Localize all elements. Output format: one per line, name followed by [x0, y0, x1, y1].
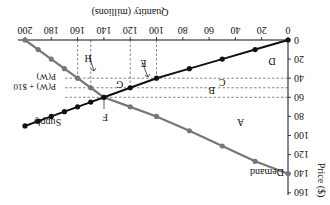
y-tick-label: 20: [294, 54, 304, 65]
x-tick-label: 60: [204, 25, 214, 36]
supply-point: [253, 47, 258, 52]
y-tick-label: 160: [294, 187, 309, 198]
x-tick-label: 200: [18, 25, 33, 36]
demand-point: [285, 171, 290, 176]
y-tick-label: 40: [294, 73, 304, 84]
region-label-a: A: [236, 117, 244, 128]
x-tick-label: 80: [178, 25, 188, 36]
y-tick-label: 80: [294, 111, 304, 122]
y-tick-label: 120: [294, 149, 309, 160]
supply-point: [128, 85, 133, 90]
supply-point: [22, 123, 27, 128]
demand-point: [36, 47, 41, 52]
demand-point: [22, 37, 27, 42]
demand-point: [220, 143, 225, 148]
region-label-g: G: [116, 79, 123, 90]
x-tick-label: 100: [149, 25, 164, 36]
y-tick-label: 140: [294, 168, 309, 179]
supply-point: [285, 37, 290, 42]
demand-point: [62, 66, 67, 71]
demand-point: [187, 128, 192, 133]
region-label-f: F: [102, 112, 108, 123]
x-tick-label: 180: [44, 25, 59, 36]
region-label-c: C: [219, 77, 226, 88]
region-labels: ABCDEFGH: [85, 53, 276, 128]
x-tick-label: 0: [286, 25, 291, 36]
x-tick-label: 160: [70, 25, 85, 36]
x-tick-label: 120: [123, 25, 138, 36]
supply-point: [220, 57, 225, 62]
demand-point: [88, 85, 93, 90]
rotated-chart-group: 020406080100120140160180200 020406080100…: [13, 6, 327, 198]
supply-demand-chart: 020406080100120140160180200 020406080100…: [0, 0, 330, 205]
x-axis-title: Quantity (millions): [92, 6, 169, 18]
demand-point: [49, 57, 54, 62]
supply-point: [154, 76, 159, 81]
demand-point: [128, 104, 133, 109]
region-label-d: D: [269, 56, 276, 67]
supply-point: [75, 104, 80, 109]
y-tick-label: 0: [294, 35, 299, 46]
demand-point: [75, 76, 80, 81]
x-tick-label: 140: [96, 25, 111, 36]
y-axis-ticks: 020406080100120140160: [288, 35, 309, 199]
demand-point: [253, 159, 258, 164]
supply-point: [187, 66, 192, 71]
demand-point: [154, 114, 159, 119]
supply-point: [88, 99, 93, 104]
region-label-e: E: [140, 58, 146, 69]
pw10-label: P(W) + $10: [13, 82, 56, 92]
y-tick-label: 60: [294, 92, 304, 103]
y-tick-label: 100: [294, 130, 309, 141]
region-label-h: H: [85, 53, 92, 64]
pw-label: P(W): [37, 72, 57, 82]
x-axis-ticks: 020406080100120140160180200: [18, 25, 291, 40]
demand-label: Demand: [250, 167, 284, 178]
x-tick-label: 20: [257, 25, 267, 36]
y-axis-title: Price ($): [315, 163, 327, 198]
supply-label: Supply: [33, 117, 61, 128]
supply-point: [62, 109, 67, 114]
x-tick-label: 40: [230, 25, 240, 36]
region-label-b: B: [208, 85, 215, 96]
